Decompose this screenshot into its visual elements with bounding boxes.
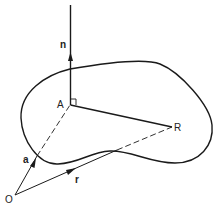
vector-r-dashed xyxy=(117,127,172,150)
label-r-point: R xyxy=(174,122,181,133)
plane-boundary xyxy=(21,61,212,164)
label-origin: O xyxy=(5,194,13,205)
vector-a-dashed xyxy=(37,105,70,156)
label-vector-r: r xyxy=(75,174,79,185)
label-a-point: A xyxy=(57,99,64,110)
vector-r-solid xyxy=(15,150,117,195)
line-a-to-r xyxy=(71,105,173,127)
label-n: n xyxy=(60,39,66,50)
right-angle-marker xyxy=(71,99,77,105)
plane-vector-diagram: n A R O a r xyxy=(0,0,219,208)
normal-arrowhead-icon xyxy=(68,52,73,61)
label-vector-a: a xyxy=(23,154,29,165)
